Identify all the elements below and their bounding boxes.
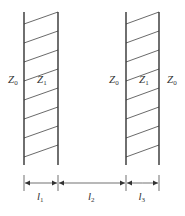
hatch-line [24, 31, 58, 43]
hatch-line [126, 50, 159, 62]
hatch-line [126, 145, 159, 157]
hatch-line [126, 107, 159, 119]
slab-1 [24, 12, 58, 165]
multilayer-slab-diagram: l1l2l3 Z0Z1Z0Z1Z0 [0, 0, 185, 216]
impedance-label: Z0 [167, 73, 177, 87]
hatch-line [126, 88, 159, 100]
impedance-label: Z1 [37, 73, 47, 87]
slab-3 [126, 12, 159, 165]
hatch-line [24, 107, 58, 119]
hatch-line [126, 12, 159, 24]
dimension-label: l1 [37, 190, 44, 204]
hatch-line [24, 88, 58, 100]
hatch-line [24, 126, 58, 138]
impedance-label: Z1 [139, 73, 149, 87]
dimension-label: l3 [139, 190, 146, 204]
hatch-line [24, 145, 58, 157]
hatch-line [126, 126, 159, 138]
impedance-label: Z0 [109, 73, 119, 87]
dimension-label: l2 [88, 190, 95, 204]
impedance-label: Z0 [8, 73, 18, 87]
dimension-l2: l2 [59, 183, 125, 204]
slabs [24, 12, 159, 165]
hatch-line [24, 12, 58, 24]
dimension-l3: l3 [127, 183, 158, 204]
dimension-l1: l1 [25, 183, 57, 204]
hatch-line [126, 31, 159, 43]
hatch-line [24, 50, 58, 62]
dimension-lines: l1l2l3 [24, 175, 159, 204]
media-labels: Z0Z1Z0Z1Z0 [8, 73, 177, 87]
